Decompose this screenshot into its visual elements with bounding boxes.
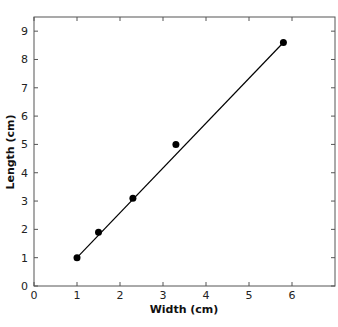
y-tick-label: 2	[21, 223, 28, 236]
y-tick-label: 0	[21, 280, 28, 293]
data-point	[95, 229, 102, 236]
y-tick-label: 9	[21, 25, 28, 38]
x-tick-label: 6	[289, 289, 296, 302]
x-axis-label: Width (cm)	[150, 303, 219, 316]
y-tick-label: 8	[21, 53, 28, 66]
x-tick-label: 0	[31, 289, 38, 302]
y-tick-label: 3	[21, 195, 28, 208]
data-point	[129, 195, 136, 202]
y-axis-label: Length (cm)	[4, 114, 17, 189]
axis-ticks: 01234560123456789	[21, 17, 335, 302]
y-tick-label: 1	[21, 252, 28, 265]
data-point	[172, 141, 179, 148]
y-tick-label: 5	[21, 138, 28, 151]
scatter-chart: 01234560123456789 Width (cm) Length (cm)	[0, 0, 338, 327]
data-point	[280, 39, 287, 46]
x-tick-label: 4	[203, 289, 210, 302]
fit-line	[77, 42, 283, 257]
x-tick-label: 5	[246, 289, 253, 302]
y-tick-label: 6	[21, 110, 28, 123]
x-tick-label: 1	[74, 289, 81, 302]
y-tick-label: 4	[21, 167, 28, 180]
y-tick-label: 7	[21, 82, 28, 95]
plot-frame	[34, 17, 335, 286]
x-tick-label: 3	[160, 289, 167, 302]
data-point	[74, 254, 81, 261]
x-tick-label: 2	[117, 289, 124, 302]
